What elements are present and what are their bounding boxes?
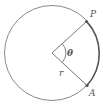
label-r: r — [59, 68, 64, 78]
circle-diagram: P A θ r — [0, 0, 103, 105]
point-a-dot — [85, 84, 88, 87]
label-p: P — [89, 9, 97, 19]
arc-ap — [87, 22, 100, 86]
label-a: A — [88, 88, 96, 98]
label-theta: θ — [67, 48, 73, 58]
angle-arc — [62, 44, 66, 63]
point-p-dot — [85, 20, 88, 23]
